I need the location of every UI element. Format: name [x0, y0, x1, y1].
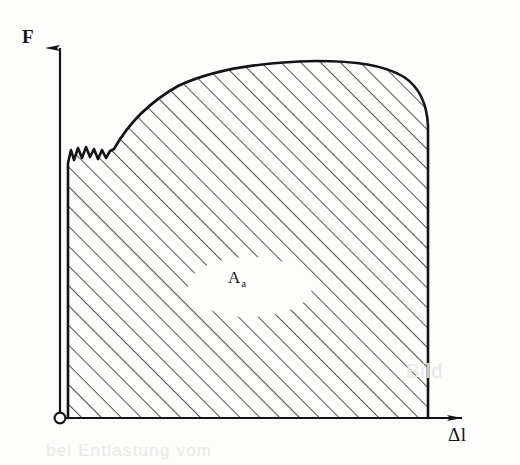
diagram-canvas: [0, 0, 520, 465]
area-label-subscript: a: [241, 277, 246, 289]
x-axis-label: Δl: [448, 424, 467, 446]
hatched-area-fill: [55, 50, 440, 425]
y-axis-label: F: [22, 26, 34, 48]
force-elongation-diagram: F Δl Aa Bild bei Entlastung vom: [0, 0, 520, 465]
area-label: Aa: [228, 268, 246, 289]
origin-marker: [55, 413, 66, 424]
area-label-base: A: [228, 268, 240, 287]
